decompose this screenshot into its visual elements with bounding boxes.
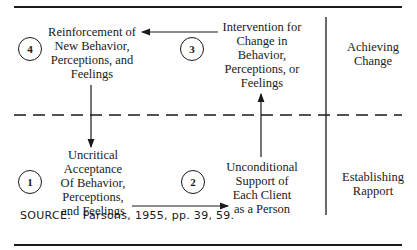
text-line: Unconditional — [222, 160, 302, 174]
step-2-circle: 2 — [181, 170, 205, 194]
text-line: Each Client — [222, 188, 302, 202]
step-3-text: Intervention for Change in Behavior, Per… — [218, 20, 306, 90]
text-line: Support of — [222, 174, 302, 188]
phase-establishing-rapport: Establishing Rapport — [338, 170, 408, 198]
step-number: 3 — [189, 43, 195, 55]
text-line: Acceptance — [56, 162, 130, 176]
text-line: Perceptions, and — [42, 53, 142, 67]
text-line: Achieving — [340, 40, 406, 54]
text-line: Feelings — [42, 67, 142, 81]
text-line: Intervention for — [218, 20, 306, 34]
text-line: Establishing — [338, 170, 408, 184]
text-line: Change — [340, 54, 406, 68]
text-line: Reinforcement of — [42, 25, 142, 39]
text-line: New Behavior, — [42, 39, 142, 53]
step-2-text: Unconditional Support of Each Client as … — [222, 160, 302, 216]
source-text: Parsons, 1955, pp. 39, 59. — [83, 209, 235, 222]
step-4-circle: 4 — [18, 37, 42, 61]
text-line: Perceptions, or — [218, 62, 306, 76]
step-4-text: Reinforcement of New Behavior, Perceptio… — [42, 25, 142, 81]
text-line: Feelings — [218, 76, 306, 90]
source-citation: SOURCE: Parsons, 1955, pp. 39, 59. — [20, 209, 234, 222]
text-line: Perceptions, — [56, 190, 130, 204]
text-line: Behavior, — [218, 48, 306, 62]
step-number: 2 — [190, 176, 196, 188]
text-line: Change in — [218, 34, 306, 48]
step-number: 4 — [27, 43, 33, 55]
source-label: SOURCE: — [20, 209, 71, 222]
step-1-circle: 1 — [18, 170, 42, 194]
text-line: Of Behavior, — [56, 176, 130, 190]
phase-achieving-change: Achieving Change — [340, 40, 406, 68]
text-line: Rapport — [338, 184, 408, 198]
step-number: 1 — [27, 176, 33, 188]
text-line: Uncritical — [56, 148, 130, 162]
step-3-circle: 3 — [180, 37, 204, 61]
step-1-text: Uncritical Acceptance Of Behavior, Perce… — [56, 148, 130, 218]
